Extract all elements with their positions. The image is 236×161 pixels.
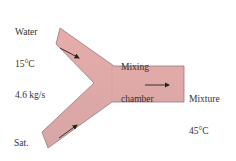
mixture-outlet-label: Mixture 45°C [189,73,220,157]
mixture-label-name: Mixture [189,94,220,105]
vapor-inlet-label: Sat. vapor 0.23 kg/s [14,117,49,161]
mixing-chamber-diagram: Water 15°C 4.6 kg/s Mixing chamber Mixtu… [0,0,236,161]
y-pipe-body [42,28,184,148]
water-label-flow: 4.6 kg/s [15,90,45,101]
water-label-name: Water [15,27,45,38]
vapor-label-name1: Sat. [14,138,49,149]
water-inlet-label: Water 15°C 4.6 kg/s [15,6,45,122]
chamber-label: Mixing chamber [121,41,154,125]
mixture-label-temp: 45°C [189,126,220,137]
chamber-label-line1: Mixing [121,62,154,73]
chamber-label-line2: chamber [121,94,154,105]
water-label-temp: 15°C [15,59,45,70]
